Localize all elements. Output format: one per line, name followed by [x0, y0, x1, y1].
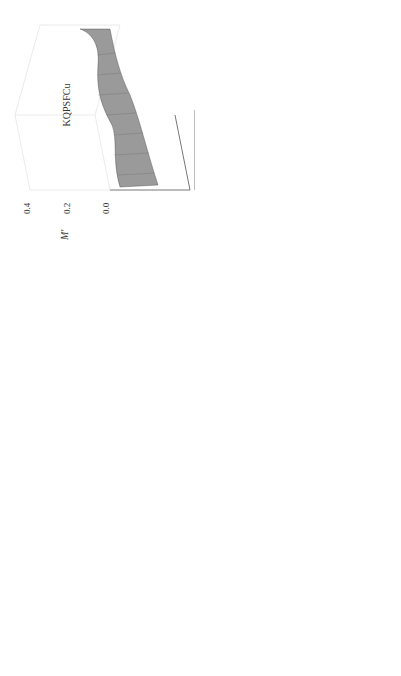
figure-canvas: [0, 0, 401, 676]
